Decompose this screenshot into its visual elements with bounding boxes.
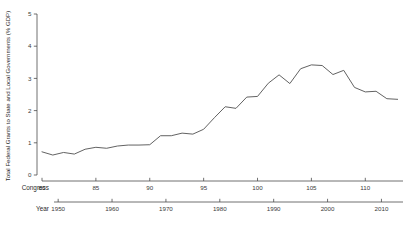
year-tick-label: 1980 [213, 205, 227, 212]
congress-axis: 80859095100105110 Congress [22, 178, 403, 192]
y-tick-label: 0 [28, 171, 32, 178]
year-axis-label: Year [36, 205, 50, 212]
y-tick-label: 1 [28, 139, 32, 146]
year-tick-label: 2010 [375, 205, 389, 212]
congress-axis-ticks: 80859095100105110 [39, 178, 371, 191]
y-tick-label: 2 [28, 107, 32, 114]
congress-tick-label: 90 [146, 184, 153, 191]
y-axis: 012345 [28, 10, 37, 178]
y-tick-label: 5 [28, 10, 32, 17]
year-tick-label: 1990 [267, 205, 281, 212]
congress-tick-label: 85 [92, 184, 99, 191]
y-axis-title: Total Federal Grants to State and Local … [4, 11, 11, 181]
congress-axis-label: Congress [22, 184, 49, 192]
congress-tick-label: 100 [252, 184, 263, 191]
congress-tick-label: 105 [306, 184, 317, 191]
y-axis-title-text: Total Federal Grants to State and Local … [4, 11, 11, 181]
year-tick-label: 2000 [321, 205, 335, 212]
federal-grants-line-chart: 012345 Total Federal Grants to State and… [0, 0, 411, 225]
y-axis-ticks: 012345 [28, 10, 37, 178]
congress-tick-label: 95 [200, 184, 207, 191]
data-series-line [42, 65, 398, 155]
chart-container: 012345 Total Federal Grants to State and… [0, 0, 411, 225]
year-tick-label: 1960 [105, 205, 119, 212]
y-tick-label: 4 [28, 42, 32, 49]
y-tick-label: 3 [28, 75, 32, 82]
year-tick-label: 1950 [51, 205, 65, 212]
year-axis-ticks: 1950196019701980199020002010 [51, 199, 389, 212]
year-tick-label: 1970 [159, 205, 173, 212]
congress-tick-label: 110 [360, 184, 370, 191]
year-axis: 1950196019701980199020002010 Year [36, 199, 403, 212]
